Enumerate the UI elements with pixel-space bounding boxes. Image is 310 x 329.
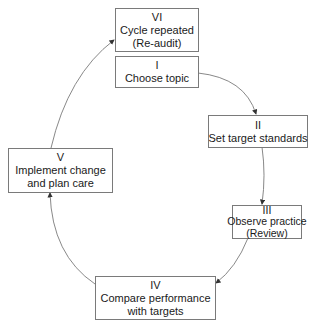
step-vi-box: VI Cycle repeated (Re-audit) — [115, 8, 199, 52]
step-iii-line-2: (Review) — [246, 228, 287, 240]
step-ii-box: II Set target standards — [208, 115, 308, 148]
arrow-v-to-vi — [51, 40, 114, 148]
step-vi-line-1: Cycle repeated — [120, 24, 194, 37]
step-ii-numeral: II — [255, 119, 261, 132]
step-v-numeral: V — [57, 151, 64, 164]
step-ii-line-1: Set target standards — [208, 132, 307, 145]
step-iv-box: IV Compare performance with targets — [95, 276, 216, 320]
step-vi-numeral: VI — [152, 11, 162, 24]
step-iv-line-1: Compare performance — [100, 292, 210, 305]
step-iv-line-2: with targets — [127, 305, 183, 318]
step-i-numeral: I — [155, 59, 158, 72]
arrow-iii-to-iv — [216, 238, 248, 283]
step-v-line-1: Implement change — [15, 164, 106, 177]
step-v-line-2: and plan care — [27, 177, 94, 190]
step-iv-numeral: IV — [150, 279, 160, 292]
step-v-box: V Implement change and plan care — [8, 148, 113, 193]
step-iii-box: III Observe practice (Review) — [232, 205, 302, 239]
step-vi-line-2: (Re-audit) — [133, 37, 182, 50]
arrow-iv-to-v — [50, 193, 95, 284]
step-i-line-1: Choose topic — [125, 72, 189, 85]
step-i-box: I Choose topic — [115, 56, 199, 88]
arrow-i-to-ii — [198, 73, 256, 114]
arrow-ii-to-iii — [262, 147, 264, 204]
